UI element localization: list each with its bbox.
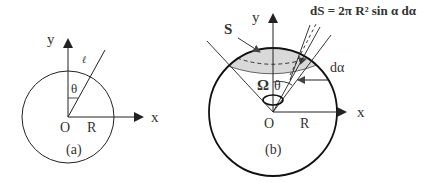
x-label-a: x: [151, 109, 159, 125]
radius-label-a: R: [87, 120, 97, 135]
formula-label: dS = 2π R² sin α dα: [310, 3, 417, 18]
caption-b: (b): [265, 142, 282, 158]
omega-label: Ω: [257, 77, 269, 93]
diagram-canvas: y x θ ℓ O R (a) y x S dS =: [0, 0, 440, 182]
origin-label-a: O: [60, 120, 70, 135]
x-label-b: x: [357, 104, 365, 120]
y-label-b: y: [252, 9, 260, 25]
theta-label-b: θ: [274, 78, 281, 93]
figure-a: y x θ ℓ O R (a): [22, 31, 159, 163]
radius-label-b: R: [300, 116, 310, 131]
surface-label: S: [224, 21, 232, 37]
origin-label-b: O: [264, 116, 274, 131]
d-alpha-label: dα: [330, 60, 345, 75]
theta-label-a: θ: [71, 81, 77, 96]
caption-a: (a): [66, 142, 82, 158]
line-label-a: ℓ: [82, 54, 86, 65]
surface-arrow: [238, 38, 260, 52]
y-label-a: y: [47, 31, 55, 47]
figure-b: y x S dS = 2π R² sin α dα dα Ω θ O R (b): [207, 3, 417, 176]
